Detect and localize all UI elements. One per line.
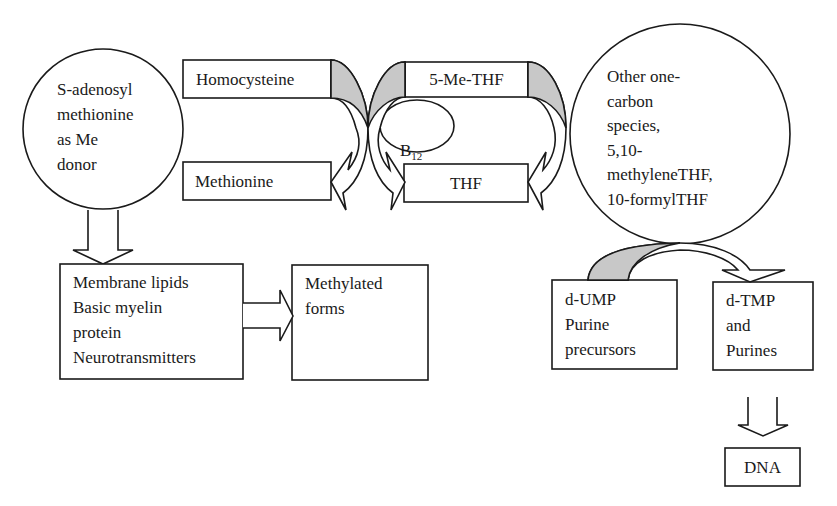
arrow-sam-to-membrane xyxy=(73,210,133,264)
methylated-label: Methylated forms xyxy=(305,271,382,321)
dump-label: d-UMP Purine precursors xyxy=(565,287,636,362)
dtmp-label: d-TMP and Purines xyxy=(726,288,777,363)
b12-text: B xyxy=(400,141,411,160)
thf-label: THF xyxy=(404,171,528,196)
sam-label: S-adenosyl methionine as Me donor xyxy=(57,77,133,177)
arrow-dtmp-to-dna xyxy=(738,397,788,436)
b12-label: B12 xyxy=(400,113,422,169)
other-one-carbon-label: Other one- carbon species, 5,10- methyle… xyxy=(607,65,713,212)
me-thf-label: 5-Me-THF xyxy=(405,67,528,92)
b12-subscript: 12 xyxy=(411,150,422,162)
membrane-label: Membrane lipids Basic myelin protein Neu… xyxy=(73,270,196,370)
methionine-label: Methionine xyxy=(195,169,273,194)
homocysteine-label: Homocysteine xyxy=(196,67,294,92)
arrow-membrane-to-methylated xyxy=(243,290,293,341)
dna-label: DNA xyxy=(725,455,800,480)
